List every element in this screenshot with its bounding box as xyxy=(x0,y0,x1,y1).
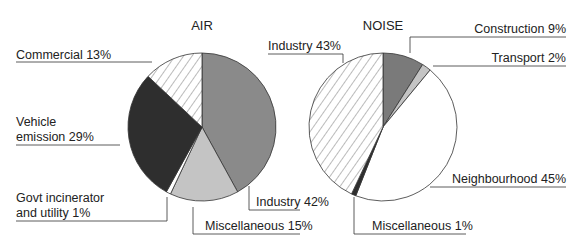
noise-title: NOISE xyxy=(363,18,404,33)
pie-charts: AIR Commercial 13% Vehicle emission 29% … xyxy=(0,0,583,249)
air-label-vehicle-line1: Vehicle xyxy=(16,115,56,129)
air-label-vehicle-line2: emission 29% xyxy=(16,130,94,144)
air-label-govt-line2: and utility 1% xyxy=(16,206,90,220)
air-label-miscellaneous: Miscellaneous 15% xyxy=(205,219,313,233)
noise-slices xyxy=(309,53,457,201)
air-label-industry: Industry 42% xyxy=(256,195,329,209)
noise-label-industry: Industry 43% xyxy=(268,39,341,53)
air-slices xyxy=(128,53,276,201)
air-title: AIR xyxy=(191,18,213,33)
noise-industry-leader-line xyxy=(268,54,343,63)
noise-label-neighbourhood: Neighbourhood 45% xyxy=(452,172,566,186)
air-label-commercial: Commercial 13% xyxy=(16,48,111,62)
noise-label-construction: Construction 9% xyxy=(474,22,566,36)
noise-label-transport: Transport 2% xyxy=(491,51,566,65)
noise-label-miscellaneous: Miscellaneous 1% xyxy=(372,219,473,233)
air-label-govt-line1: Govt incinerator xyxy=(16,191,104,205)
